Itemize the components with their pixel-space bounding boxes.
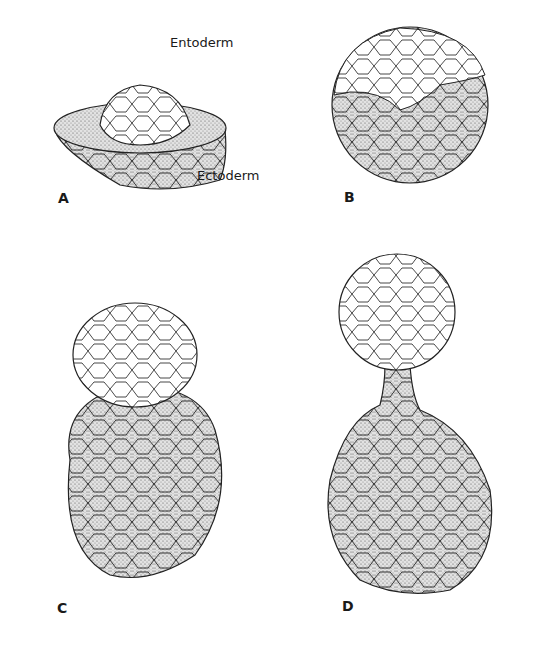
panel-label-c: C	[57, 600, 67, 616]
ectoderm-label: Ectoderm	[197, 168, 259, 183]
panel-label-a: A	[58, 190, 69, 206]
figure-canvas	[0, 0, 545, 663]
panel-label-d: D	[342, 598, 354, 614]
entoderm-label: Entoderm	[170, 35, 234, 50]
panel-d-embryo	[328, 254, 492, 593]
panel-c-embryo	[68, 303, 221, 578]
panel-b-embryo	[332, 27, 488, 183]
panel-label-b: B	[344, 189, 355, 205]
